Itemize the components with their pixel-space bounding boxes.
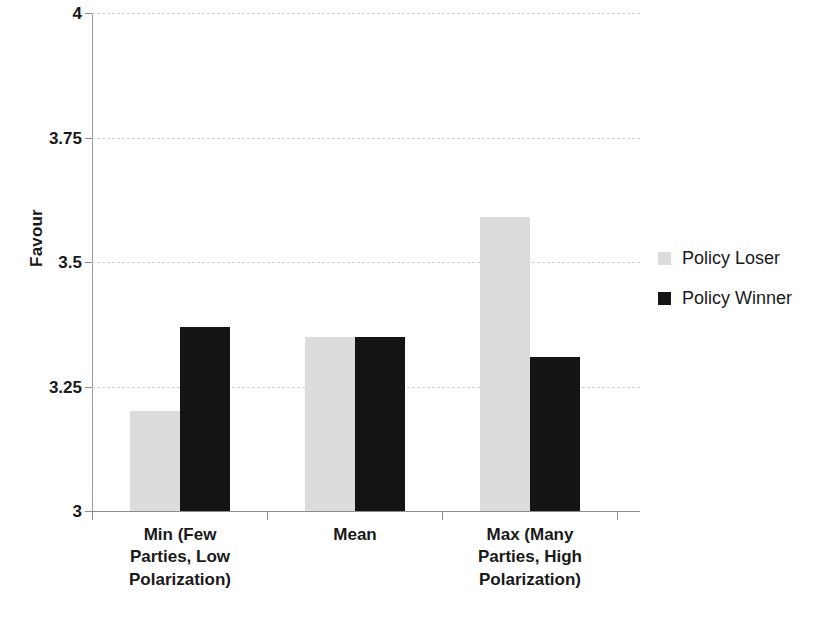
bar bbox=[130, 411, 180, 511]
legend-item: Policy Winner bbox=[658, 278, 792, 318]
x-axis-tick-mark bbox=[92, 511, 93, 520]
x-axis-category-label: Mean bbox=[260, 524, 450, 546]
x-axis-tick-mark bbox=[267, 511, 268, 520]
x-axis-tick-mark bbox=[442, 511, 443, 520]
bar-chart-figure: Favour 33.253.53.754 Min (FewParties, Lo… bbox=[0, 0, 827, 619]
x-axis-category-label: Min (FewParties, LowPolarization) bbox=[85, 524, 275, 591]
legend-item: Policy Loser bbox=[658, 238, 792, 278]
y-axis-tick-label: 3.5 bbox=[4, 254, 82, 271]
y-axis-tick-label: 3 bbox=[4, 503, 82, 520]
gridline bbox=[92, 138, 640, 139]
bar bbox=[180, 327, 230, 511]
x-axis-line bbox=[92, 511, 640, 512]
legend-item-label: Policy Loser bbox=[682, 248, 780, 269]
plot-area bbox=[92, 13, 640, 511]
black-swatch bbox=[658, 292, 671, 305]
gridline bbox=[92, 13, 640, 14]
chart-legend: Policy LoserPolicy Winner bbox=[658, 238, 792, 318]
x-axis-tick-mark bbox=[617, 511, 618, 520]
bar bbox=[305, 337, 355, 511]
y-axis-tick-label: 3.25 bbox=[4, 378, 82, 395]
gridline bbox=[92, 262, 640, 263]
category-label-line: Parties, Low bbox=[85, 546, 275, 568]
category-label-line: Polarization) bbox=[435, 569, 625, 591]
bar bbox=[530, 357, 580, 511]
category-label-line: Mean bbox=[260, 524, 450, 546]
y-axis-tick-label: 3.75 bbox=[4, 129, 82, 146]
light-gray-swatch bbox=[658, 252, 671, 265]
y-axis-tick-label: 4 bbox=[4, 5, 82, 22]
bar bbox=[355, 337, 405, 511]
x-axis-category-label: Max (ManyParties, HighPolarization) bbox=[435, 524, 625, 591]
category-label-line: Parties, High bbox=[435, 546, 625, 568]
legend-item-label: Policy Winner bbox=[682, 288, 792, 309]
category-label-line: Min (Few bbox=[85, 524, 275, 546]
category-label-line: Max (Many bbox=[435, 524, 625, 546]
category-label-line: Polarization) bbox=[85, 569, 275, 591]
bar bbox=[480, 217, 530, 511]
